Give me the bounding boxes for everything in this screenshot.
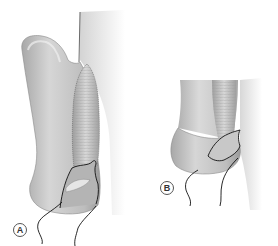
panel-label-a: A [13, 223, 27, 237]
suture-thread-b-left [186, 170, 199, 206]
face-shadow-b [240, 78, 262, 210]
illustration-canvas [0, 0, 278, 246]
face-profile-line-a [79, 12, 80, 62]
surgical-illustration: A B [0, 0, 278, 246]
panel-b [171, 78, 262, 210]
panel-label-b: B [160, 181, 174, 195]
panel-a [22, 10, 125, 246]
